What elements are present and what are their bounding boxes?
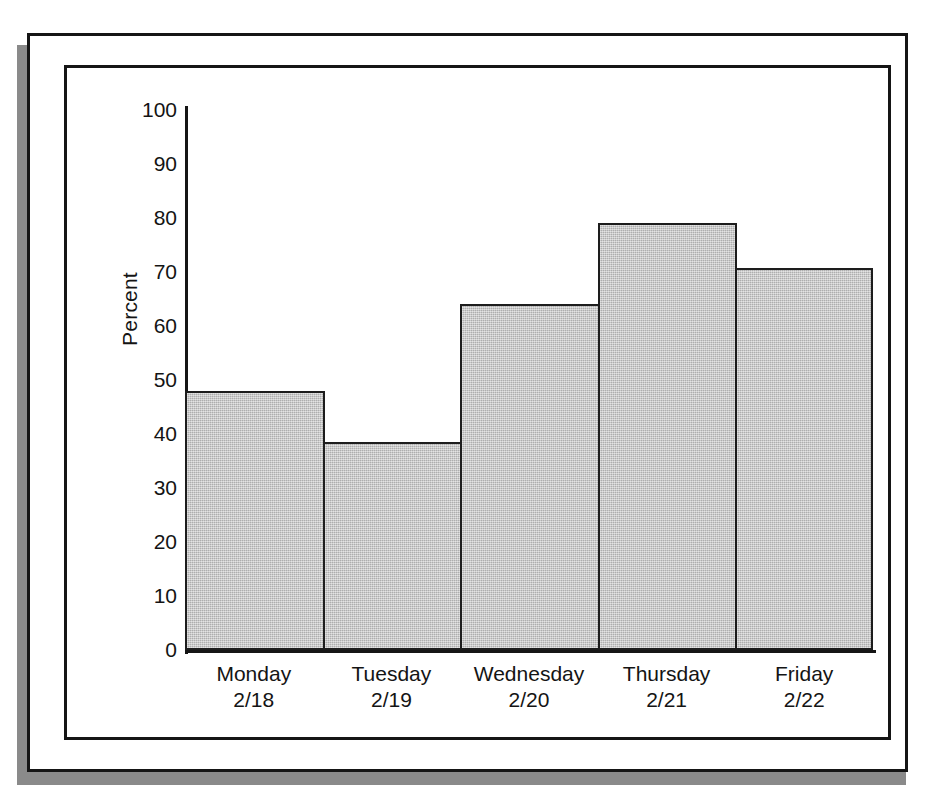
x-label-day: Monday: [216, 662, 291, 685]
x-label-date: 2/18: [185, 687, 323, 713]
y-tick-label-80: 80: [119, 206, 177, 230]
bar-thursday: [598, 223, 738, 650]
bar-chart: Percent 1009080706050403020100 Monday2/1…: [64, 65, 891, 740]
x-label-friday: Friday2/22: [735, 661, 873, 713]
x-label-date: 2/19: [323, 687, 461, 713]
bar-monday: [185, 391, 325, 650]
y-tick-label-0: 0: [119, 638, 177, 662]
x-axis-line: [185, 650, 876, 653]
x-label-date: 2/21: [598, 687, 736, 713]
y-tick-label-100: 100: [119, 98, 177, 122]
x-label-thursday: Thursday2/21: [598, 661, 736, 713]
y-tick-label-40: 40: [119, 422, 177, 446]
x-label-day: Friday: [775, 662, 833, 685]
y-tick-label-30: 30: [119, 476, 177, 500]
x-label-day: Wednesday: [474, 662, 585, 685]
bar-series: [185, 110, 873, 650]
x-label-tuesday: Tuesday2/19: [323, 661, 461, 713]
y-tick-label-90: 90: [119, 152, 177, 176]
y-tick-label-20: 20: [119, 530, 177, 554]
x-label-wednesday: Wednesday2/20: [460, 661, 598, 713]
plot-area: [185, 110, 873, 650]
bar-wednesday: [460, 304, 600, 650]
bar-tuesday: [323, 442, 463, 650]
x-axis-category-labels: Monday2/18Tuesday2/19Wednesday2/20Thursd…: [185, 661, 873, 731]
x-label-date: 2/20: [460, 687, 598, 713]
y-tick-label-10: 10: [119, 584, 177, 608]
bar-friday: [735, 268, 873, 650]
x-label-date: 2/22: [735, 687, 873, 713]
x-label-monday: Monday2/18: [185, 661, 323, 713]
y-tick-label-70: 70: [119, 260, 177, 284]
y-tick-label-60: 60: [119, 314, 177, 338]
chart-page: Percent 1009080706050403020100 Monday2/1…: [0, 0, 929, 804]
y-tick-label-50: 50: [119, 368, 177, 392]
x-label-day: Thursday: [623, 662, 711, 685]
y-axis-tick-labels: 1009080706050403020100: [115, 110, 177, 650]
x-label-day: Tuesday: [352, 662, 432, 685]
